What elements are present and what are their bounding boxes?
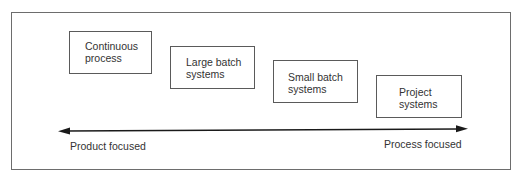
arrow-left-head-icon <box>58 128 70 135</box>
arrow-line <box>66 129 458 131</box>
bidirectional-arrow <box>0 0 524 180</box>
product-focused-label: Product focused <box>70 140 146 152</box>
process-focused-label: Process focused <box>384 138 462 150</box>
arrow-right-head-icon <box>456 125 468 132</box>
